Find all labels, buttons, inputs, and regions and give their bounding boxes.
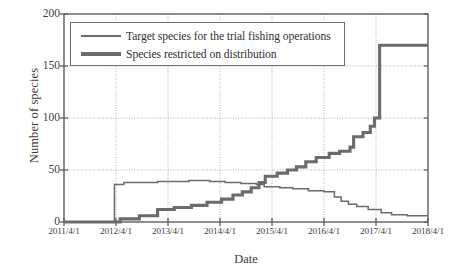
x-axis-title: Date: [64, 252, 428, 267]
legend-swatch-thick-line: [81, 52, 121, 55]
x-tick-label: 2011/4/1: [35, 226, 93, 236]
x-tick-label: 2014/4/1: [191, 226, 249, 236]
legend-item-restricted-species: Species restricted on distribution: [81, 45, 277, 63]
x-tick-label: 2016/4/1: [295, 226, 353, 236]
chart-figure: Number of species 200 150 100 50 0 Targe…: [0, 0, 463, 280]
x-tick-label: 2013/4/1: [139, 226, 197, 236]
series-line-restricted-species: [64, 45, 428, 222]
chart-legend: Target species for the trial fishing ope…: [70, 22, 345, 66]
legend-item-target-species: Target species for the trial fishing ope…: [81, 27, 331, 45]
x-tick-label: 2018/4/1: [399, 226, 457, 236]
legend-label-target-species: Target species for the trial fishing ope…: [126, 30, 331, 43]
legend-swatch-thin-line: [81, 35, 121, 37]
x-tick-label: 2015/4/1: [243, 226, 301, 236]
series-line-target-species: [64, 180, 428, 222]
legend-label-restricted-species: Species restricted on distribution: [126, 48, 277, 61]
x-tick-label: 2017/4/1: [347, 226, 405, 236]
x-tick-label: 2012/4/1: [87, 226, 145, 236]
